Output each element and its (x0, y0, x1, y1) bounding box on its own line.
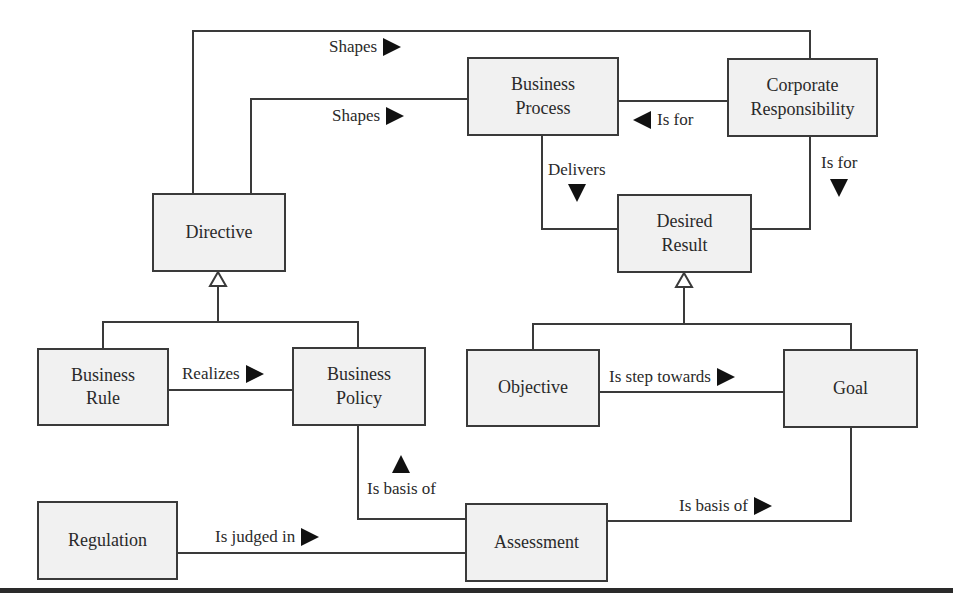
node-label: Business (511, 73, 575, 96)
desired-result-generalization-line (533, 324, 851, 349)
edge-label-is-judged-in: Is judged in (215, 527, 319, 547)
node-business-policy[interactable]: Business Policy (292, 347, 426, 426)
is-for-down-line (751, 136, 810, 229)
arrow-right-icon (386, 107, 404, 125)
arrow-left-icon (633, 111, 651, 129)
edge-label-realizes: Realizes (182, 364, 264, 384)
node-goal[interactable]: Goal (783, 349, 918, 428)
arrow-down-icon (568, 184, 586, 202)
edge-label-delivers: Delivers (548, 160, 606, 202)
arrow-right-icon (754, 497, 772, 515)
arrow-up-icon (392, 455, 410, 473)
directive-generalization-line (103, 322, 358, 348)
arrow-right-icon (383, 38, 401, 56)
node-label: Policy (336, 387, 382, 410)
node-label: Directive (186, 221, 253, 244)
node-label: Business (327, 363, 391, 386)
edge-label-shapes-top: Shapes (329, 37, 401, 57)
arrow-right-icon (301, 528, 319, 546)
node-label: Desired (657, 210, 713, 233)
node-business-process[interactable]: Business Process (467, 57, 619, 136)
edge-label-is-basis-of-right: Is basis of (679, 496, 772, 516)
node-objective[interactable]: Objective (466, 349, 600, 427)
node-label: Objective (498, 376, 568, 399)
arrow-right-icon (717, 368, 735, 386)
edge-label-is-step-towards: Is step towards (609, 367, 735, 387)
node-label: Regulation (68, 529, 147, 552)
arrow-down-icon (830, 179, 848, 197)
node-label: Business (71, 364, 135, 387)
edge-label-is-basis-of-up: Is basis of (367, 455, 436, 499)
node-regulation[interactable]: Regulation (37, 501, 178, 580)
arrow-right-icon (246, 365, 264, 383)
node-directive[interactable]: Directive (152, 193, 286, 272)
node-label: Assessment (494, 531, 579, 554)
node-label: Corporate (767, 74, 839, 97)
generalization-arrow-icon (676, 273, 692, 287)
node-assessment[interactable]: Assessment (465, 503, 608, 582)
node-label: Process (516, 97, 571, 120)
node-label: Rule (86, 387, 120, 410)
generalization-arrow-icon (210, 272, 226, 286)
edge-label-shapes-mid: Shapes (332, 106, 404, 126)
node-corporate-responsibility[interactable]: Corporate Responsibility (727, 58, 878, 137)
edge-label-is-for-left: Is for (633, 110, 693, 130)
node-desired-result[interactable]: Desired Result (617, 194, 752, 273)
node-label: Responsibility (750, 98, 854, 121)
edge-label-is-for-down: Is for (821, 153, 857, 197)
bottom-rule-divider (0, 588, 953, 593)
node-label: Goal (833, 377, 868, 400)
node-label: Result (661, 234, 707, 257)
node-business-rule[interactable]: Business Rule (37, 348, 169, 426)
